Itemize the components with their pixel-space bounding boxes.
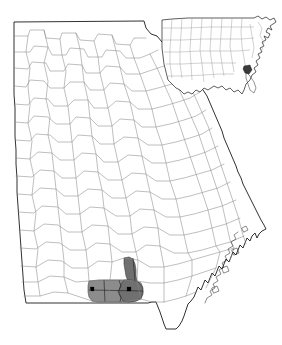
barrier-island-4 — [212, 286, 219, 293]
map-figure: Georgia County Map — [0, 0, 282, 345]
map-canvas: United States — [0, 0, 282, 345]
city-marker-east[interactable] — [127, 287, 131, 291]
us-inset-map[interactable]: United States — [162, 16, 276, 94]
